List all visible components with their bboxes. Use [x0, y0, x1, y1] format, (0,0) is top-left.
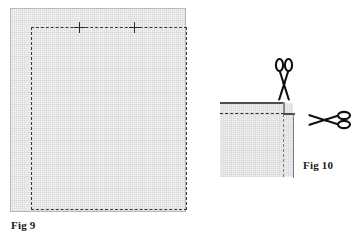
fig9-caption: Fig 9	[11, 219, 36, 231]
scissors-horizontal-icon	[305, 104, 351, 136]
scissors-vertical-icon	[268, 58, 300, 104]
fig9-fabric-panel	[10, 8, 186, 212]
fig9-cross-mark-left-icon	[74, 22, 85, 33]
figure-fig10: Fig 10	[200, 0, 352, 239]
fig10-caption: Fig 10	[303, 159, 333, 171]
diagram-page: Fig 9	[0, 0, 352, 239]
fig9-stitching-line	[31, 27, 187, 210]
fig9-cross-mark-right-icon	[129, 22, 140, 33]
figure-fig9: Fig 9	[0, 0, 200, 239]
fig10-horizontal-fold-line	[220, 113, 284, 114]
fig10-flap-right-edge	[293, 114, 294, 178]
fig10-vertical-fold-line	[283, 114, 284, 177]
